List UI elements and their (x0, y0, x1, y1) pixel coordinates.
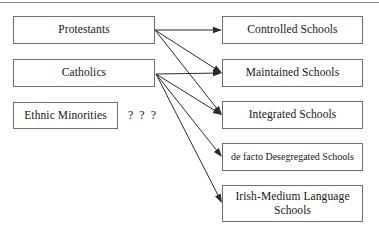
arrow-catholics-to-irish-medium (156, 74, 222, 203)
node-label-irish-medium-language-schools: Irish-Medium Language Schools (227, 190, 358, 217)
node-label-ethnic-minorities: Ethnic Minorities (18, 109, 113, 123)
node-protestants[interactable]: Protestants (13, 16, 155, 44)
arrow-catholics-to-maintained (156, 70, 222, 76)
node-label-maintained-schools: Maintained Schools (227, 66, 358, 80)
node-integrated-schools[interactable]: Integrated Schools (222, 101, 363, 129)
arrow-protestants-to-integrated (155, 30, 222, 115)
school-types-diagram: ProtestantsCatholicsEthnic MinoritiesCon… (0, 0, 379, 234)
node-label-integrated-schools: Integrated Schools (227, 108, 358, 122)
node-label-catholics: Catholics (18, 66, 150, 80)
node-label-controlled-schools: Controlled Schools (227, 23, 358, 37)
page-top-rule (0, 2, 379, 3)
unknown-relationship-marker: ? ? ? (128, 108, 157, 123)
node-de-facto-desegregated-schools[interactable]: de facto Desegregated Schools (222, 143, 363, 171)
node-catholics[interactable]: Catholics (13, 59, 155, 87)
node-label-de-facto-desegregated-schools: de facto Desegregated Schools (227, 151, 358, 163)
node-controlled-schools[interactable]: Controlled Schools (222, 16, 363, 44)
node-maintained-schools[interactable]: Maintained Schools (222, 59, 363, 87)
node-ethnic-minorities[interactable]: Ethnic Minorities (13, 102, 118, 129)
arrow-catholics-to-de-facto (156, 74, 222, 157)
node-irish-medium-language-schools[interactable]: Irish-Medium Language Schools (222, 185, 363, 222)
node-label-protestants: Protestants (18, 23, 150, 37)
arrow-protestants-to-controlled (155, 27, 222, 33)
arrow-catholics-to-integrated (156, 74, 222, 115)
arrow-protestants-to-maintained (155, 30, 222, 73)
